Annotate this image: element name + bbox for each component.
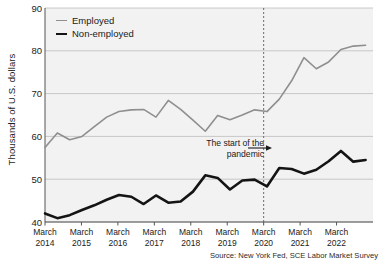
pandemic-annotation-line2: pandemic	[188, 149, 264, 160]
legend-item-nonemployed: Non-employed	[56, 27, 134, 40]
y-tick-60: 60	[16, 131, 42, 142]
legend-item-employed: Employed	[56, 14, 134, 27]
x-tick-month: March	[25, 227, 65, 238]
x-tick-label-2019: March2019	[207, 227, 247, 248]
plot-background	[45, 8, 373, 222]
x-tick-year: 2016	[98, 238, 138, 249]
x-tick-label-2018: March2018	[171, 227, 211, 248]
x-tick-label-2022: March2022	[317, 227, 357, 248]
x-tick-marks	[45, 222, 337, 226]
x-tick-month: March	[244, 227, 284, 238]
x-tick-month: March	[171, 227, 211, 238]
legend-swatch-employed-icon	[56, 20, 67, 21]
y-tick-90: 90	[16, 3, 42, 14]
x-tick-label-2016: March2016	[98, 227, 138, 248]
y-tick-70: 70	[16, 88, 42, 99]
source-note: Source: New York Fed, SCE Labor Market S…	[210, 251, 378, 260]
pandemic-annotation-line1: The start of the	[188, 138, 264, 149]
x-tick-year: 2019	[207, 238, 247, 249]
x-tick-year: 2021	[280, 238, 320, 249]
y-axis-ticks: 90 80 70 60 50 40	[0, 0, 42, 263]
x-tick-month: March	[61, 227, 101, 238]
legend-label-nonemployed: Non-employed	[72, 27, 134, 40]
x-tick-year: 2020	[244, 238, 284, 249]
x-tick-month: March	[98, 227, 138, 238]
pandemic-annotation: The start of the pandemic	[188, 138, 264, 159]
x-tick-label-2015: March2015	[61, 227, 101, 248]
y-tick-50: 50	[16, 174, 42, 185]
x-tick-month: March	[134, 227, 174, 238]
chart-legend: Employed Non-employed	[56, 14, 134, 40]
x-tick-year: 2015	[61, 238, 101, 249]
chart-figure: Thousands of U.S. dollars 90 80 70 60 50…	[0, 0, 383, 263]
x-tick-label-2021: March2021	[280, 227, 320, 248]
legend-swatch-nonemployed-icon	[56, 33, 67, 35]
x-tick-month: March	[207, 227, 247, 238]
legend-label-employed: Employed	[72, 14, 114, 27]
x-tick-label-2014: March2014	[25, 227, 65, 248]
x-tick-year: 2014	[25, 238, 65, 249]
x-tick-label-2017: March2017	[134, 227, 174, 248]
x-tick-year: 2018	[171, 238, 211, 249]
x-tick-month: March	[280, 227, 320, 238]
x-tick-month: March	[317, 227, 357, 238]
y-tick-80: 80	[16, 45, 42, 56]
x-tick-year: 2017	[134, 238, 174, 249]
x-tick-year: 2022	[317, 238, 357, 249]
x-tick-label-2020: March2020	[244, 227, 284, 248]
